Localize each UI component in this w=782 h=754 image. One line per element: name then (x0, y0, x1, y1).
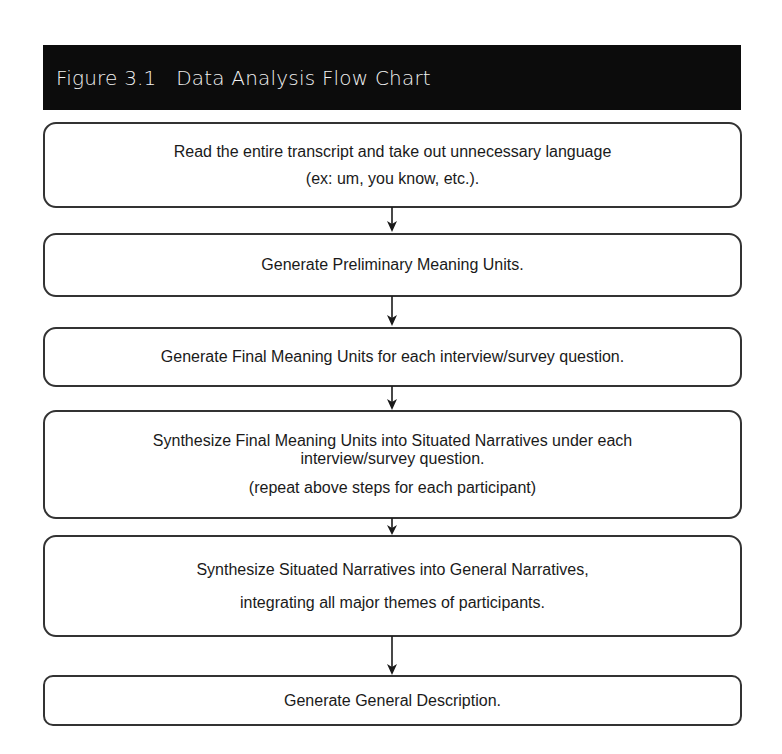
step-5-line-2: integrating all major themes of particip… (240, 594, 545, 612)
arrow-down-icon (384, 518, 400, 536)
flow-step-3-final-meaning-units: Generate Final Meaning Units for each in… (43, 327, 742, 387)
figure-title-bar: Figure 3.1 Data Analysis Flow Chart (43, 45, 741, 110)
arrow-down-icon (384, 636, 400, 676)
step-5-line-1: Synthesize Situated Narratives into Gene… (196, 561, 588, 579)
step-1-line-2: (ex: um, you know, etc.). (306, 170, 479, 188)
step-4-line-1: Synthesize Final Meaning Units into Situ… (153, 432, 632, 450)
arrow-down-icon (384, 296, 400, 327)
step-2-line-1: Generate Preliminary Meaning Units. (261, 256, 523, 274)
step-4-line-2: interview/survey question. (300, 450, 484, 468)
step-3-line-1: Generate Final Meaning Units for each in… (161, 348, 624, 366)
step-4-line-3: (repeat above steps for each participant… (249, 479, 536, 497)
flow-step-5-general-narratives: Synthesize Situated Narratives into Gene… (43, 535, 742, 637)
flow-step-6-general-description: Generate General Description. (43, 675, 742, 726)
flow-step-2-preliminary-meaning-units: Generate Preliminary Meaning Units. (43, 233, 742, 297)
step-6-line-1: Generate General Description. (284, 692, 501, 710)
flow-step-4-situated-narratives: Synthesize Final Meaning Units into Situ… (43, 410, 742, 519)
step-1-line-1: Read the entire transcript and take out … (174, 143, 612, 161)
flow-step-1-read-transcript: Read the entire transcript and take out … (43, 122, 742, 208)
figure-title: Figure 3.1 Data Analysis Flow Chart (56, 66, 431, 90)
arrow-down-icon (384, 207, 400, 233)
arrow-down-icon (384, 386, 400, 411)
